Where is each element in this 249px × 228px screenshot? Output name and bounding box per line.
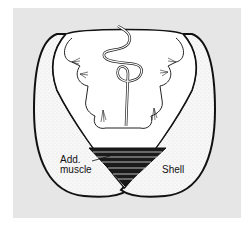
adductor-label: Add. muscle [60,155,92,175]
bivalve-diagram [0,0,249,228]
adductor-label-line2: muscle [60,165,92,175]
shell-label: Shell [162,165,184,175]
